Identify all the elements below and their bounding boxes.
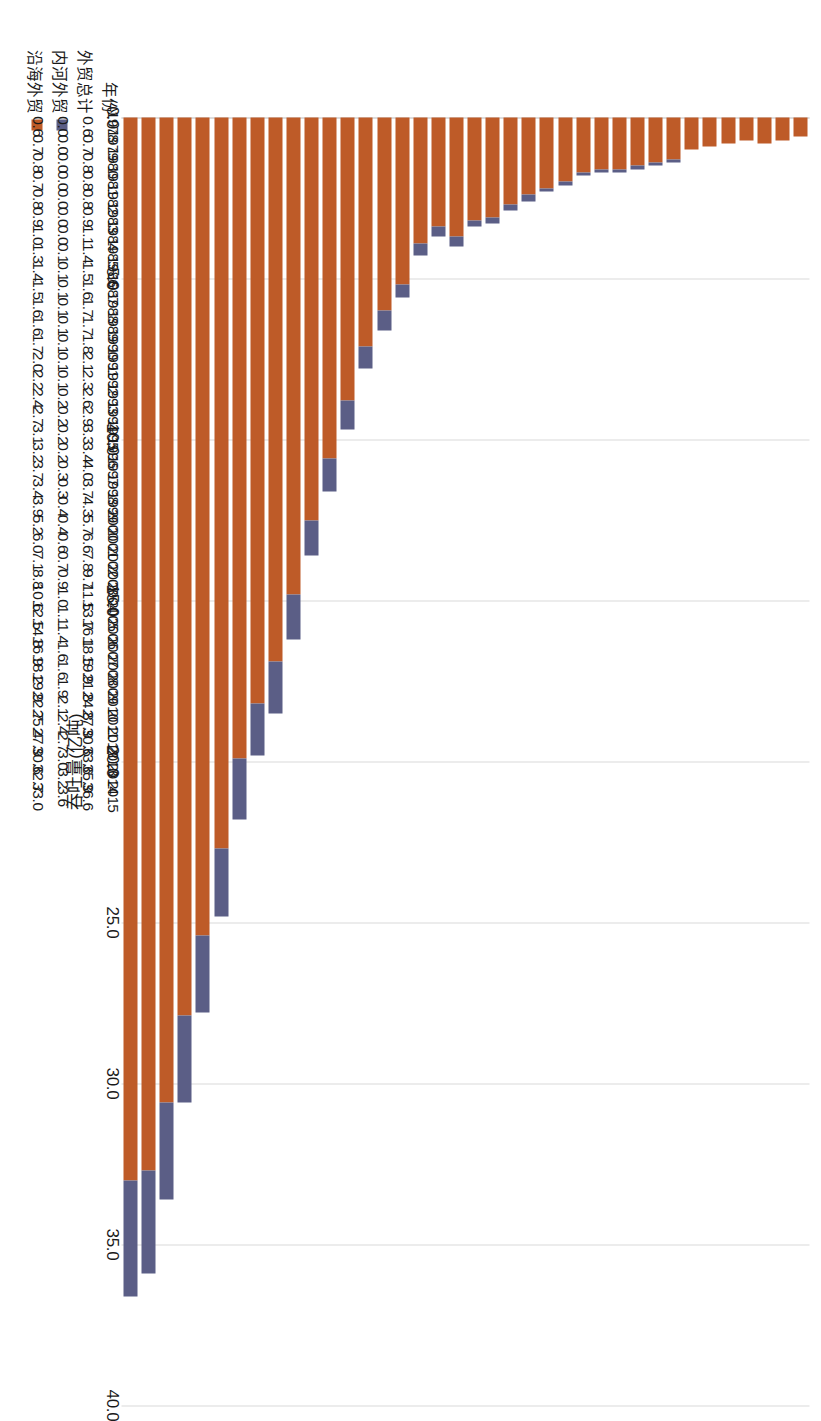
- gridline: [121, 1244, 809, 1245]
- table-cell: 0.1: [53, 369, 71, 389]
- table-cell: 3.1: [28, 424, 46, 444]
- table-cell: 1.6: [28, 297, 46, 317]
- table-cell: 0.9: [78, 206, 96, 226]
- bar-segment-coastal: [793, 117, 807, 136]
- bar-segment-coastal: [322, 117, 336, 458]
- data-table: 年份 1978197919801981198219831984198519861…: [1, 117, 121, 1405]
- table-cell: 1.4: [78, 243, 96, 263]
- table-cell: 0.3: [53, 460, 71, 480]
- table-cell: 0.0: [53, 152, 71, 172]
- table-cell: 4.0: [78, 460, 96, 480]
- table-cell: 3.4: [78, 442, 96, 462]
- bar-segment-coastal: [159, 117, 173, 1102]
- bar-segment-inland: [195, 935, 209, 1012]
- bar-segment-coastal: [612, 117, 626, 169]
- stacked-bar: [503, 117, 517, 210]
- table-cell: 0.9: [53, 568, 71, 588]
- bar-segment-coastal: [721, 117, 735, 143]
- table-cell: 3.6: [53, 786, 71, 806]
- table-cell: 0.2: [53, 406, 71, 426]
- table-cell: 4.3: [78, 496, 96, 516]
- table-cell: 6.6: [78, 532, 96, 552]
- stacked-bar: [594, 117, 608, 172]
- bar-segment-inland: [666, 159, 680, 162]
- table-cell: 1.1: [78, 224, 96, 244]
- table-cell: 1.6: [28, 315, 46, 335]
- table-row: 年份 1978197919801981198219831984198519861…: [97, 117, 121, 1405]
- table-cell: 0.8: [78, 152, 96, 172]
- bar-segment-coastal: [431, 117, 445, 226]
- bar-segment-coastal: [485, 117, 499, 217]
- stacked-bar: [141, 117, 155, 1273]
- bar-segment-inland: [449, 236, 463, 246]
- bar-segment-inland: [576, 172, 590, 175]
- table-cell: 3.2: [28, 442, 46, 462]
- table-cell: 0.3: [53, 478, 71, 498]
- table-cell: 2015: [103, 780, 121, 811]
- row-label-inland: 内河外贸: [49, 49, 71, 113]
- stacked-bar: [702, 117, 716, 146]
- stacked-bar: [340, 117, 354, 429]
- gridline: [121, 922, 809, 923]
- bar-segment-inland: [521, 194, 535, 200]
- stacked-bar: [467, 117, 481, 226]
- bar-segment-inland: [467, 220, 481, 226]
- table-cell: 0.2: [53, 424, 71, 444]
- table-cell: 0.2: [53, 442, 71, 462]
- bar-segment-coastal: [648, 117, 662, 162]
- table-row: 外贸总计 0.60.70.80.80.80.91.11.41.51.61.71.…: [72, 117, 96, 1405]
- table-cell: 1.6: [78, 279, 96, 299]
- table-cell: 1.7: [78, 315, 96, 335]
- table-cell: 7.8: [78, 550, 96, 570]
- bar-segment-inland: [123, 1180, 137, 1296]
- table-cell: 3.4: [28, 478, 46, 498]
- bar-segment-inland: [214, 848, 228, 916]
- bar-segment-inland: [648, 162, 662, 165]
- table-cell: 2.1: [78, 351, 96, 371]
- table-cell: 2.7: [53, 731, 71, 751]
- table-cell: 36.6: [78, 782, 96, 811]
- stacked-bar: [449, 117, 463, 246]
- table-cell: 1.8: [78, 333, 96, 353]
- bar-segment-coastal: [250, 117, 264, 703]
- bar-segment-inland: [485, 217, 499, 223]
- row-label-coastal: 沿海外贸: [24, 49, 46, 113]
- bar-segment-inland: [177, 1015, 191, 1102]
- table-cell: 3.2: [53, 768, 71, 788]
- table-cell: 1.0: [53, 587, 71, 607]
- table-cell: 1.6: [53, 641, 71, 661]
- table-cell: 0.7: [28, 134, 46, 154]
- table-cell: 3.3: [78, 424, 96, 444]
- table-cell: 0.0: [53, 188, 71, 208]
- bar-segment-inland: [159, 1102, 173, 1199]
- table-cell: 0.6: [78, 116, 96, 136]
- table-cell: 0.6: [53, 532, 71, 552]
- stacked-bar: [666, 117, 680, 162]
- stacked-bar: [322, 117, 336, 491]
- stacked-bar: [630, 117, 644, 169]
- table-cell: 1.7: [78, 297, 96, 317]
- table-cell: 0.9: [28, 206, 46, 226]
- bar-segment-coastal: [214, 117, 228, 848]
- stacked-bar: [793, 117, 807, 136]
- table-cell: 2.1: [53, 695, 71, 715]
- stacked-bar: [739, 117, 753, 140]
- bar-segment-coastal: [594, 117, 608, 169]
- gridline: [121, 1083, 809, 1084]
- table-cell: 0.4: [53, 514, 71, 534]
- bar-segment-coastal: [576, 117, 590, 172]
- stacked-bar: [757, 117, 771, 143]
- bar-segment-coastal: [684, 117, 698, 149]
- table-cell: 1.4: [53, 623, 71, 643]
- table-cell: 0.1: [53, 315, 71, 335]
- bar-segment-coastal: [702, 117, 716, 146]
- table-cell: 3.7: [78, 478, 96, 498]
- table-cell: 7.1: [28, 550, 46, 570]
- bar-segment-inland: [340, 400, 354, 429]
- bar-segment-coastal: [123, 117, 137, 1180]
- bar-segment-inland: [503, 204, 517, 210]
- stacked-bar: [485, 117, 499, 223]
- table-cell: 5.7: [78, 514, 96, 534]
- stacked-bar: [612, 117, 626, 172]
